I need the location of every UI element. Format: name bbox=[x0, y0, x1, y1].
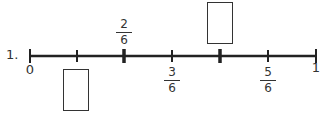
fraction-three-sixths: 3 6 bbox=[162, 66, 182, 95]
fraction-five-sixths: 5 6 bbox=[258, 66, 278, 95]
numerator: 5 bbox=[258, 66, 278, 79]
denominator: 6 bbox=[258, 82, 278, 95]
label-zero: 0 bbox=[25, 62, 35, 77]
answer-box-one-sixth[interactable] bbox=[63, 69, 89, 111]
label-one: 1 bbox=[311, 60, 321, 75]
denominator: 6 bbox=[114, 34, 134, 47]
numerator: 3 bbox=[162, 66, 182, 79]
answer-box-four-sixths[interactable] bbox=[207, 2, 233, 44]
problem-number: 1. bbox=[6, 47, 18, 62]
denominator: 6 bbox=[162, 82, 182, 95]
numerator: 2 bbox=[114, 18, 134, 31]
fraction-two-sixths: 2 6 bbox=[114, 18, 134, 47]
number-line bbox=[0, 0, 326, 118]
